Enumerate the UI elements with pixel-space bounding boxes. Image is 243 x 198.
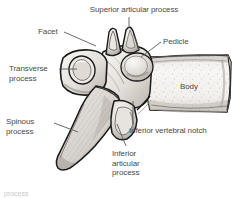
label-inferior-articular-process: Inferior articular process (112, 149, 166, 178)
label-body: Body (180, 82, 214, 92)
label-spinous-process: Spinous process (6, 117, 62, 136)
label-pedicle: Pedicle (163, 37, 203, 47)
label-inferior-vertebral-notch: Inferior vertebral notch (129, 126, 241, 136)
label-facet: Facet (38, 27, 72, 37)
cutoff-caption-strip: process (0, 190, 243, 198)
vertebra-figure: Superior articular process Facet Pedicle… (0, 0, 243, 198)
cutoff-caption-text: process (0, 190, 243, 198)
label-transverse-process: Transverse process (9, 64, 69, 83)
label-superior-articular-process: Superior articular process (74, 5, 194, 15)
